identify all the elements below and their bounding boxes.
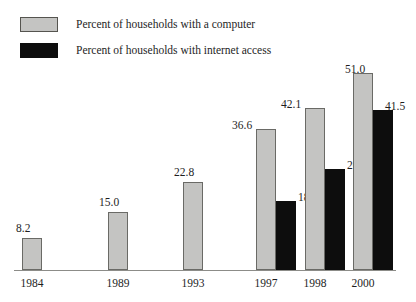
bar-value-computer-1997: 36.6	[232, 119, 252, 131]
bar-internet-1997	[276, 201, 296, 270]
x-tick-1998: 1998	[290, 277, 340, 290]
bar-computer-1997	[256, 129, 276, 270]
plot-area: 8.2 1984 15.0 1989 22.8 1993 36.6 18.0 1…	[0, 0, 416, 302]
bar-value-computer-1998: 42.1	[281, 98, 301, 110]
bar-value-computer-1993: 22.8	[174, 166, 194, 178]
x-tick-1989: 1989	[93, 277, 143, 290]
bar-computer-1998	[305, 108, 325, 270]
x-axis-line	[14, 270, 396, 271]
x-tick-2000: 2000	[338, 277, 388, 290]
bar-computer-1993	[183, 182, 203, 270]
bar-chart: Percent of households with a computer Pe…	[0, 0, 416, 302]
bar-value-computer-2000: 51.0	[345, 63, 365, 75]
x-tick-1997: 1997	[241, 277, 291, 290]
bar-internet-1998	[325, 169, 345, 270]
bar-internet-2000	[373, 110, 393, 270]
bar-value-computer-1984: 8.2	[16, 222, 30, 234]
bar-value-computer-1989: 15.0	[99, 196, 119, 208]
x-tick-1984: 1984	[7, 277, 57, 290]
x-tick-1993: 1993	[168, 277, 218, 290]
bar-computer-1984	[22, 238, 42, 270]
bar-computer-1989	[108, 212, 128, 270]
bar-computer-2000	[353, 73, 373, 270]
bar-value-internet-2000: 41.5	[385, 100, 405, 112]
